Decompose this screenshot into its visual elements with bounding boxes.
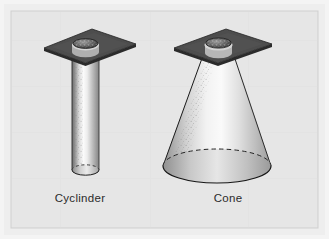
cone-label: Cone	[178, 192, 278, 204]
cylinder-label: Cyclinder	[30, 192, 130, 204]
cone-base-cap	[163, 149, 271, 183]
cylinder-nozzle	[72, 39, 99, 58]
spray-pattern-figure: Cyclinder Cone	[0, 0, 329, 239]
cylinder-droplet-texture	[74, 50, 83, 170]
cylinder-bottom-cap	[72, 165, 99, 175]
cone-nozzle	[205, 38, 233, 58]
